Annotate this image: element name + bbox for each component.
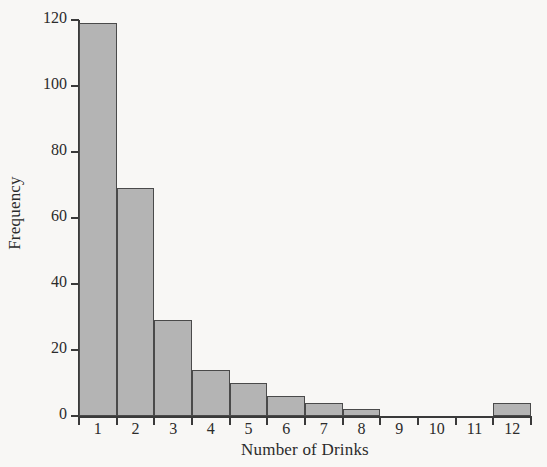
bar bbox=[493, 403, 531, 416]
x-tick-label: 2 bbox=[117, 420, 155, 438]
x-axis-title: Number of Drinks bbox=[79, 440, 531, 460]
y-tick-label: 120 bbox=[27, 9, 67, 27]
y-tick-label: 100 bbox=[27, 75, 67, 93]
y-tick: 60 bbox=[71, 217, 79, 219]
y-axis-title-text: Frequency bbox=[5, 176, 25, 250]
y-tick-label: 0 bbox=[27, 405, 67, 423]
y-tick-label: 80 bbox=[27, 141, 67, 159]
plot-area: 020406080100120 123456789101112 bbox=[79, 20, 531, 417]
y-tick: 20 bbox=[71, 349, 79, 351]
y-tick-label: 60 bbox=[27, 207, 67, 225]
x-tick-label: 7 bbox=[305, 420, 343, 438]
y-tick-label: 20 bbox=[27, 339, 67, 357]
y-tick: 120 bbox=[71, 19, 79, 21]
bar bbox=[305, 403, 343, 416]
bar bbox=[154, 320, 192, 416]
y-tick-label: 40 bbox=[27, 273, 67, 291]
x-tick-label: 4 bbox=[192, 420, 230, 438]
x-tick-label: 1 bbox=[79, 420, 117, 438]
x-tick-label: 6 bbox=[267, 420, 305, 438]
y-tick: 40 bbox=[71, 283, 79, 285]
bar bbox=[79, 23, 117, 416]
x-tick-label: 11 bbox=[456, 420, 494, 438]
bar bbox=[192, 370, 230, 416]
histogram-figure: Frequency 020406080100120 12345678910111… bbox=[0, 0, 547, 467]
x-tick-label: 3 bbox=[154, 420, 192, 438]
x-tick-label: 10 bbox=[418, 420, 456, 438]
x-tick-label: 5 bbox=[230, 420, 268, 438]
y-tick: 80 bbox=[71, 151, 79, 153]
bar bbox=[117, 188, 155, 416]
bar bbox=[343, 409, 381, 416]
bar bbox=[267, 396, 305, 416]
x-tick-label: 12 bbox=[493, 420, 531, 438]
x-tick-label: 8 bbox=[343, 420, 381, 438]
y-tick: 100 bbox=[71, 85, 79, 87]
x-tick-label: 9 bbox=[380, 420, 418, 438]
bar bbox=[230, 383, 268, 416]
y-axis-title: Frequency bbox=[0, 0, 30, 425]
